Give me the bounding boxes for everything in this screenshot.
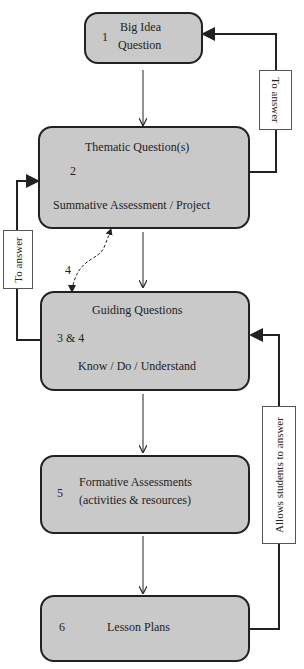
box-top-text: Thematic Question(s) bbox=[85, 140, 189, 155]
box-thematic-questions: Thematic Question(s) 2 Summative Assessm… bbox=[38, 126, 250, 229]
box-label: Lesson Plans bbox=[107, 620, 170, 635]
box-title-line2: (activities & resources) bbox=[79, 493, 191, 508]
label-to-answer-left: To answer bbox=[3, 230, 33, 289]
label-to-answer-right: To answer bbox=[259, 70, 292, 130]
box-title-line2: Question bbox=[118, 38, 161, 53]
box-lesson-plans: 6 Lesson Plans bbox=[40, 595, 250, 662]
box-title-line1: Formative Assessments bbox=[79, 475, 192, 490]
box-bottom-text: Know / Do / Understand bbox=[78, 359, 196, 374]
step-number: 5 bbox=[57, 486, 63, 501]
box-top-text: Guiding Questions bbox=[92, 303, 182, 318]
step-number: 3 & 4 bbox=[57, 331, 84, 346]
step-number: 1 bbox=[102, 30, 108, 45]
box-guiding-questions: Guiding Questions 3 & 4 Know / Do / Unde… bbox=[40, 291, 250, 391]
box-title-line1: Big Idea bbox=[120, 20, 161, 35]
box-big-idea-question: 1 Big Idea Question bbox=[84, 12, 203, 64]
box-formative-assessments: 5 Formative Assessments (activities & re… bbox=[40, 455, 250, 534]
step-number: 6 bbox=[59, 620, 65, 635]
step-number: 2 bbox=[70, 164, 76, 179]
box-bottom-text: Summative Assessment / Project bbox=[53, 198, 210, 213]
dashed-link-number: 4 bbox=[65, 263, 71, 278]
label-allows-students-to-answer: Allows students to answer bbox=[262, 406, 296, 544]
